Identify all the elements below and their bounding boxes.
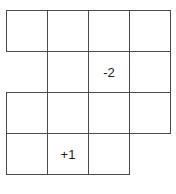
grid-cell-r2c3[interactable]: -2 [88,51,130,93]
grid-cell-r3c3[interactable] [88,92,130,134]
grid-cell-r2c4[interactable] [129,51,171,93]
grid-cell-r1c3[interactable] [88,10,130,52]
cell-label-r4c2: +1 [61,148,76,161]
grid-cell-r1c1[interactable] [6,10,48,52]
grid-cell-r4c3[interactable] [88,133,130,175]
grid-cell-r3c2[interactable] [47,92,89,134]
grid-staircase-figure: -2+1 [0,0,176,194]
grid-cell-r4c2[interactable]: +1 [47,133,89,175]
grid-cell-r1c2[interactable] [47,10,89,52]
grid-cell-r3c1[interactable] [6,92,48,134]
grid-cell-r4c1[interactable] [6,133,48,175]
grid-cell-r3c4[interactable] [129,92,171,134]
cell-label-r2c3: -2 [103,66,115,79]
grid-cell-r1c4[interactable] [129,10,171,52]
grid-cell-r2c2[interactable] [47,51,89,93]
